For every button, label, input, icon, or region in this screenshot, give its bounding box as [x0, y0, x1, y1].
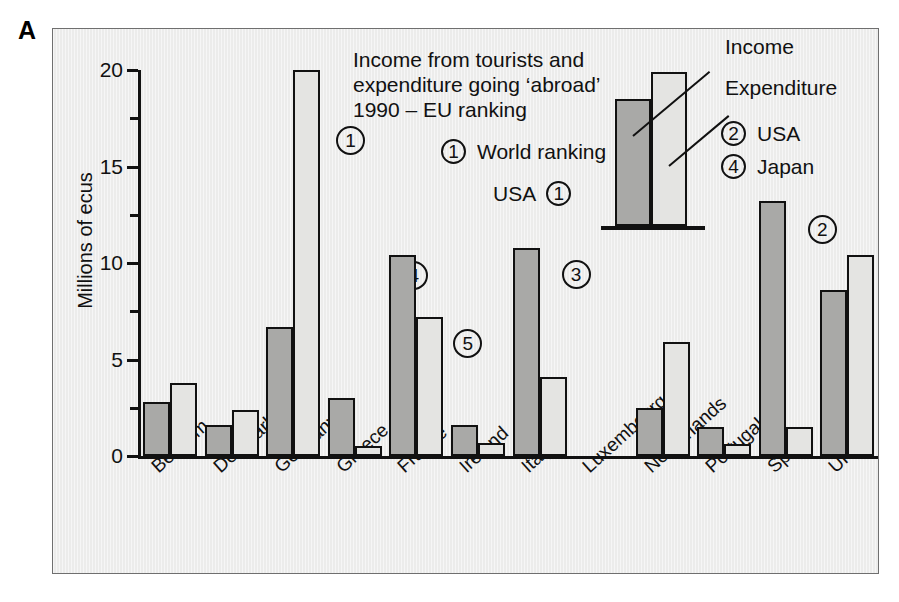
plot-area: Income from tourists and expenditure goi… [53, 29, 878, 573]
bar-expenditure-portugal [724, 444, 751, 456]
bar-group [203, 70, 265, 456]
bar-expenditure-italy [540, 377, 567, 456]
bar-income-ireland [451, 425, 478, 456]
bar-income-netherlands [636, 408, 663, 456]
legend-bar-income [615, 99, 651, 226]
key-row-japan: 4Japan [721, 154, 814, 179]
bar-group [818, 70, 879, 456]
circled-number-icon: 1 [441, 139, 466, 164]
bar-expenditure-greece [355, 446, 382, 456]
chart-title-line-1: Income from tourists and [353, 47, 601, 72]
bar-income-germany [266, 327, 293, 456]
bar-expenditure-spain [786, 427, 813, 456]
chart-frame: Income from tourists and expenditure goi… [52, 28, 879, 574]
key-row-usa: 2USA [721, 121, 814, 146]
y-tick-minor [130, 407, 138, 410]
key-world-ranking: 1 World ranking [441, 139, 606, 164]
key-row-label: USA [757, 122, 800, 146]
legend-label-income: Income [725, 35, 794, 59]
key-usa-left: USA 1 [493, 181, 571, 206]
bar-expenditure-denmark [232, 410, 259, 456]
bar-income-spain [759, 201, 786, 456]
bar-income-belgium [143, 402, 170, 456]
rank-badge-italy-income: 3 [562, 260, 591, 289]
bar-income-greece [328, 398, 355, 456]
y-tick-minor [130, 117, 138, 120]
y-tick-label: 20 [75, 59, 123, 80]
figure-panel: A Income from tourists and expenditure g… [0, 0, 899, 602]
circled-number-icon: 4 [721, 154, 746, 179]
bar-group [449, 70, 511, 456]
key-row-label: Japan [757, 155, 814, 179]
bar-income-denmark [205, 425, 232, 456]
bar-expenditure-uk [847, 255, 874, 456]
bar-group [141, 70, 203, 456]
bar-income-uk [820, 290, 847, 456]
y-tick-minor [130, 310, 138, 313]
y-axis-title: Millions of ecus [74, 91, 97, 391]
panel-letter: A [18, 16, 37, 45]
legend-label-expenditure: Expenditure [725, 76, 837, 100]
bar-expenditure-germany [293, 70, 320, 456]
circled-number-icon: 1 [546, 181, 571, 206]
rank-badge-spain-income: 2 [808, 215, 837, 244]
rank-badge-germany-expenditure: 1 [336, 126, 365, 155]
circled-number-icon: 2 [721, 121, 746, 146]
key-world-ranking-label: World ranking [477, 140, 606, 164]
y-tick-major [127, 69, 138, 72]
bar-income-portugal [697, 427, 724, 456]
key-world-rankings-right: 2USA4Japan [721, 121, 814, 187]
x-axis-labels: BelgiumDenmarkGermanyGreeceFranceIreland… [141, 461, 879, 571]
legend-inset-baseline [601, 226, 705, 230]
y-tick-major [127, 262, 138, 265]
bar-income-italy [513, 248, 540, 456]
y-tick-label: 0 [75, 445, 123, 466]
bar-expenditure-belgium [170, 383, 197, 456]
y-tick-major [127, 359, 138, 362]
y-tick-minor [130, 214, 138, 217]
legend-inset-bars [601, 55, 721, 230]
bar-income-france [389, 255, 416, 456]
key-usa-left-label: USA [493, 182, 536, 206]
bar-expenditure-france [416, 317, 443, 456]
bar-group [511, 70, 573, 456]
y-tick-major [127, 166, 138, 169]
y-tick-major [127, 455, 138, 458]
bar-expenditure-netherlands [663, 342, 690, 456]
bar-expenditure-ireland [478, 443, 505, 457]
bar-group [264, 70, 326, 456]
